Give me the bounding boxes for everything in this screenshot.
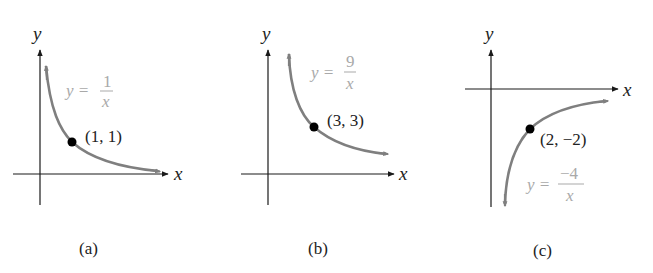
curve-a	[46, 66, 158, 171]
caption-a: (a)	[79, 239, 98, 258]
curve-b	[289, 54, 386, 154]
svg-text:x: x	[345, 74, 354, 93]
svg-text:9: 9	[346, 52, 355, 71]
svg-text:1: 1	[103, 72, 112, 91]
x-axis-label: x	[622, 79, 632, 100]
svg-text:−4: −4	[560, 164, 579, 183]
panel-c: x y (2, −2) y = −4 x (c)	[465, 23, 632, 260]
point-marker	[526, 125, 535, 134]
point-marker	[310, 123, 319, 132]
svg-text:x: x	[565, 186, 574, 205]
figure: x y (1, 1) y = 1 x (a) x y (3, 3) y = 9 …	[0, 0, 653, 273]
svg-text:y =: y =	[309, 63, 334, 82]
y-axis-label: y	[483, 23, 494, 44]
curve-c	[505, 101, 606, 204]
svg-text:y =: y =	[64, 81, 89, 100]
equation-label: y = 9 x	[309, 52, 356, 93]
point-label: (3, 3)	[327, 111, 364, 130]
svg-text:x: x	[101, 92, 110, 111]
point-marker	[68, 138, 77, 147]
equation-label: y = −4 x	[525, 164, 584, 205]
point-label: (2, −2)	[540, 130, 586, 149]
panel-a: x y (1, 1) y = 1 x (a)	[13, 23, 183, 258]
caption-b: (b)	[308, 239, 328, 258]
y-axis-label: y	[31, 23, 42, 44]
x-axis-label: x	[173, 163, 183, 184]
point-label: (1, 1)	[85, 127, 122, 146]
panel-b: x y (3, 3) y = 9 x (b)	[241, 23, 408, 258]
equation-label: y = 1 x	[64, 72, 113, 111]
y-axis-label: y	[260, 23, 271, 44]
caption-c: (c)	[533, 241, 552, 260]
x-axis-label: x	[398, 163, 408, 184]
svg-text:y =: y =	[525, 175, 550, 194]
